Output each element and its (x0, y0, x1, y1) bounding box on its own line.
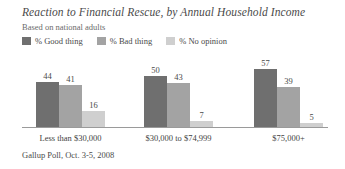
chart-legend: % Good thing % Bad thing % No opinion (22, 36, 227, 46)
bar[interactable] (82, 111, 105, 128)
chart-subtitle: Based on national adults (22, 22, 105, 32)
legend-swatch-icon (166, 37, 175, 45)
legend-swatch-icon (22, 37, 31, 45)
bar-column[interactable]: 57 (254, 55, 277, 128)
bar[interactable] (144, 76, 167, 128)
bar[interactable] (254, 69, 277, 128)
bar-value-label: 16 (82, 100, 105, 110)
legend-label: % Bad thing (110, 36, 153, 46)
bar[interactable] (167, 83, 190, 128)
bar[interactable] (277, 87, 300, 128)
bar-column[interactable]: 50 (144, 55, 167, 128)
legend-label: % No opinion (179, 36, 227, 46)
bar-column[interactable]: 16 (82, 55, 105, 128)
legend-swatch-icon (97, 37, 106, 45)
bar[interactable] (59, 85, 82, 128)
bar-value-label: 7 (190, 110, 213, 120)
bar-value-label: 41 (59, 74, 82, 84)
bar-value-label: 5 (300, 112, 323, 122)
bar-column[interactable]: 5 (300, 55, 323, 128)
bar-column[interactable]: 43 (167, 55, 190, 128)
legend-item-good-thing: % Good thing (22, 36, 83, 46)
bar-value-label: 39 (277, 76, 300, 86)
bar-column[interactable]: 44 (36, 55, 59, 128)
legend-item-bad-thing: % Bad thing (97, 36, 153, 46)
plot-area: 444116Less than $30,00050437$30,000 to $… (22, 55, 328, 128)
chart-title: Reaction to Financial Rescue, by Annual … (22, 6, 305, 18)
category-label: $75,000+ (251, 133, 326, 143)
chart-figure: Reaction to Financial Rescue, by Annual … (0, 0, 345, 169)
bar-value-label: 57 (254, 58, 277, 68)
bar[interactable] (36, 82, 59, 128)
category-label: $30,000 to $74,999 (129, 133, 229, 143)
bar-column[interactable]: 39 (277, 55, 300, 128)
bar-value-label: 44 (36, 71, 59, 81)
bar-column[interactable]: 41 (59, 55, 82, 128)
legend-item-no-opinion: % No opinion (166, 36, 227, 46)
legend-label: % Good thing (35, 36, 83, 46)
bar-group-bars: 50437 (144, 55, 213, 128)
bar-value-label: 43 (167, 72, 190, 82)
bar-group-bars: 444116 (36, 55, 105, 128)
chart-source: Gallup Poll, Oct. 3-5, 2008 (22, 150, 114, 160)
category-label: Less than $30,000 (25, 133, 117, 143)
bar-column[interactable]: 7 (190, 55, 213, 128)
bar-value-label: 50 (144, 65, 167, 75)
axis-baseline (22, 127, 328, 128)
bar-group-bars: 57395 (254, 55, 323, 128)
